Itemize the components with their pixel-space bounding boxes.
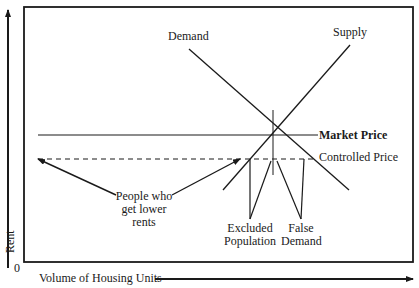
demand-label: Demand — [168, 30, 209, 43]
false-demand-annotation: False Demand — [281, 222, 321, 248]
excluded-line-right — [250, 161, 271, 219]
excluded-population-annotation: Excluded Population — [222, 222, 278, 248]
lower-rents-line-3: rents — [113, 216, 175, 229]
x-axis-label: Volume of Housing Units — [39, 272, 162, 285]
false-demand-line-2: Demand — [281, 235, 321, 248]
y-axis-label: Rent — [3, 230, 18, 253]
market-price-label: Market Price — [319, 129, 387, 142]
excluded-line-2: Population — [222, 235, 278, 248]
false-demand-line-right — [301, 159, 304, 219]
supply-curve — [223, 45, 350, 190]
demand-curve — [189, 49, 349, 190]
lower-rents-arrow-right — [172, 159, 240, 195]
false-demand-line-left — [277, 161, 301, 219]
lower-rents-annotation: People who get lower rents — [113, 190, 175, 229]
rent-control-diagram — [0, 0, 419, 288]
controlled-price-label: Controlled Price — [319, 151, 398, 164]
origin-label: 0 — [14, 262, 20, 275]
supply-label: Supply — [333, 26, 367, 39]
lower-rents-arrow-left — [38, 159, 116, 195]
